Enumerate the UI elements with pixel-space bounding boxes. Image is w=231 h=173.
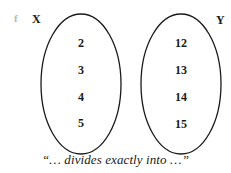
- set-x-element: 4: [66, 90, 96, 105]
- set-y-element: 14: [166, 90, 196, 105]
- set-x-element: 2: [66, 36, 96, 51]
- set-x-oval: [41, 14, 121, 154]
- set-y-element: 12: [166, 36, 196, 51]
- set-x-element: 3: [66, 63, 96, 78]
- set-ovals: [0, 0, 231, 173]
- set-x-element: 5: [66, 116, 96, 131]
- set-y-element: 15: [166, 117, 196, 132]
- set-y-element: 13: [166, 63, 196, 78]
- relation-caption: “… divides exactly into …”: [0, 152, 231, 168]
- set-y-oval: [141, 14, 221, 154]
